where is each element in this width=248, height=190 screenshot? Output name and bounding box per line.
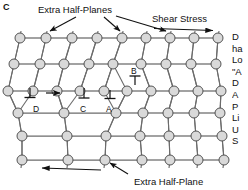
clipped-text-line: S [232, 135, 248, 147]
atom [62, 131, 72, 141]
label-dislocation-a: A [106, 104, 112, 114]
atom [146, 86, 156, 96]
atom [138, 108, 148, 118]
atom [101, 131, 111, 141]
atom [186, 59, 196, 69]
atom [35, 59, 45, 69]
atom [41, 33, 51, 43]
dislocation-lattice-diagram [0, 0, 248, 190]
clipped-text-line: U [232, 124, 248, 136]
atom [165, 155, 175, 165]
caption-extra-half-plane: Extra Half-Plane [134, 176, 203, 187]
clipped-text-line: Li [232, 112, 248, 124]
shear-stress-arrow-bottom [42, 168, 101, 170]
atom [100, 155, 110, 165]
clipped-text-line: A [232, 89, 248, 101]
atom [191, 131, 201, 141]
atom [161, 59, 171, 69]
atom [15, 33, 25, 43]
atom [117, 33, 127, 43]
atom [122, 86, 132, 96]
atom [63, 155, 73, 165]
atom [189, 108, 199, 118]
atom [211, 59, 221, 69]
atom [17, 155, 27, 165]
lattice-bonds [8, 31, 224, 168]
panel-label: C [3, 2, 10, 12]
clipped-text-line: D [232, 77, 248, 89]
extra-half-plane-arrow-2 [104, 17, 120, 31]
dislocation-symbol-b [130, 76, 141, 85]
atom [136, 59, 146, 69]
clipped-text-line: ha [232, 43, 248, 55]
clipped-text-line: P [232, 101, 248, 113]
atom [217, 131, 227, 141]
clipped-text-line: D [232, 31, 248, 43]
atom [111, 108, 121, 118]
clipped-side-text: DhaLo"ADAPLiUS [232, 31, 248, 147]
atom [17, 131, 27, 141]
atom [59, 108, 69, 118]
atom [137, 155, 147, 165]
atom [108, 59, 118, 69]
atom [164, 131, 174, 141]
atom [141, 33, 151, 43]
atom [216, 86, 226, 96]
atom [135, 131, 145, 141]
atom [169, 86, 179, 96]
atom [165, 33, 175, 43]
atom [67, 33, 77, 43]
clipped-text-line: "A [232, 66, 248, 78]
label-dislocation-d: D [33, 104, 39, 114]
clipped-text-line: Lo [232, 54, 248, 66]
atom [219, 155, 229, 165]
atom [9, 59, 19, 69]
atom [189, 33, 199, 43]
atom [163, 108, 173, 118]
atom [52, 86, 62, 96]
atom [3, 86, 13, 96]
lattice-atoms [3, 33, 229, 165]
extra-half-plane-arrow-bottom [110, 163, 128, 174]
atom [193, 155, 203, 165]
label-dislocation-c: C [80, 104, 86, 114]
atom [215, 108, 225, 118]
atom [59, 59, 69, 69]
extra-half-plane-arrow-1 [50, 17, 76, 31]
atom [13, 108, 23, 118]
caption-extra-half-planes: Extra Half-Planes [38, 4, 112, 15]
atom [213, 33, 223, 43]
caption-shear-stress: Shear Stress [152, 13, 207, 24]
label-dislocation-b: B [131, 66, 137, 76]
atom [99, 86, 109, 96]
atom [193, 86, 203, 96]
atom [84, 59, 94, 69]
atom [92, 33, 102, 43]
